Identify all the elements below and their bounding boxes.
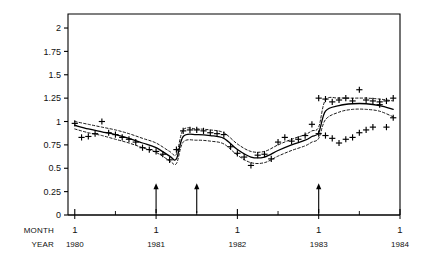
plot-frame bbox=[68, 14, 400, 215]
data-point-marker bbox=[309, 121, 315, 127]
data-point-marker bbox=[112, 132, 118, 138]
data-point-marker bbox=[146, 146, 152, 152]
data-point-marker bbox=[228, 144, 234, 150]
x-axis-year-label: 1982 bbox=[228, 240, 246, 249]
intervention-arrow bbox=[194, 183, 199, 213]
data-point-marker bbox=[85, 133, 91, 139]
x-axis-year-label: 1981 bbox=[147, 240, 165, 249]
data-point-marker bbox=[322, 96, 328, 102]
data-point-marker bbox=[106, 130, 112, 136]
data-point-marker bbox=[383, 98, 389, 104]
y-axis-tick-label: 1.75 bbox=[43, 47, 61, 57]
x-axis-month-label: 1 bbox=[153, 224, 158, 235]
intervention-arrow bbox=[153, 183, 158, 213]
x-axis-month-label: 1 bbox=[72, 224, 77, 235]
data-point-marker bbox=[160, 151, 166, 157]
data-point-marker bbox=[383, 124, 389, 130]
data-point-marker bbox=[356, 87, 362, 93]
data-point-marker bbox=[363, 127, 369, 133]
x-axis-month-label: 1 bbox=[316, 224, 321, 235]
data-point-marker bbox=[78, 134, 84, 140]
x-axis-year-label: 1983 bbox=[310, 240, 328, 249]
data-point-marker bbox=[316, 95, 322, 101]
y-axis-tick-label: 0.25 bbox=[43, 187, 61, 197]
data-point-marker bbox=[349, 134, 355, 140]
y-axis-tick-label: 0.5 bbox=[48, 163, 61, 173]
intervention-arrow bbox=[316, 183, 321, 213]
data-point-marker bbox=[329, 99, 335, 105]
data-point-marker bbox=[322, 132, 328, 138]
data-point-marker bbox=[370, 124, 376, 130]
x-axis-year-label: 1980 bbox=[66, 240, 84, 249]
data-point-marker bbox=[302, 132, 308, 138]
data-point-marker bbox=[282, 134, 288, 140]
y-axis-tick-label: 2 bbox=[56, 23, 61, 33]
data-point-marker bbox=[377, 102, 383, 108]
x-axis-year-label: 1984 bbox=[391, 240, 409, 249]
x-axis-month-label: 1 bbox=[397, 224, 402, 235]
data-point-marker bbox=[363, 97, 369, 103]
y-axis-tick-label: 1.5 bbox=[48, 70, 61, 80]
data-point-marker bbox=[336, 140, 342, 146]
y-axis-tick-label: 0.75 bbox=[43, 140, 61, 150]
data-point-marker bbox=[343, 136, 349, 142]
x-axis-row-label-month: MONTH bbox=[24, 226, 54, 235]
x-axis-month-label: 1 bbox=[235, 224, 240, 235]
data-point-marker bbox=[356, 130, 362, 136]
data-point-marker bbox=[329, 135, 335, 141]
chart-root: 00.250.50.7511.251.51.752119801198111982… bbox=[0, 0, 426, 267]
data-point-marker bbox=[194, 127, 200, 133]
data-point-marker bbox=[390, 95, 396, 101]
fitted-line bbox=[75, 104, 393, 161]
data-point-marker bbox=[99, 118, 105, 124]
y-axis-tick-label: 1 bbox=[56, 117, 61, 127]
data-point-marker bbox=[343, 95, 349, 101]
data-point-marker bbox=[336, 97, 342, 103]
timeseries-chart: 00.250.50.7511.251.51.752119801198111982… bbox=[0, 0, 426, 267]
data-point-marker bbox=[288, 138, 294, 144]
y-axis-tick-label: 0 bbox=[56, 210, 61, 220]
x-axis-row-label-year: YEAR bbox=[31, 240, 54, 249]
data-point-marker bbox=[139, 145, 145, 151]
y-axis-tick-label: 1.25 bbox=[43, 93, 61, 103]
